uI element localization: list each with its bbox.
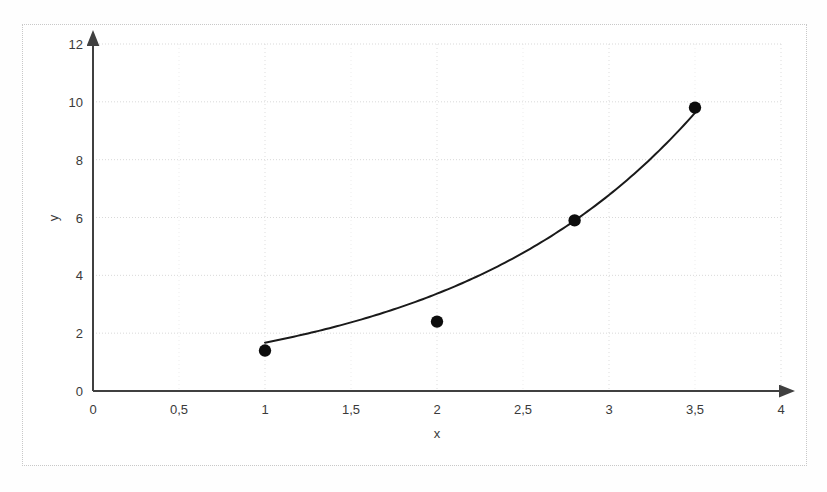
y-tick-label-3: 6 xyxy=(76,211,83,226)
x-tick-label-4: 2 xyxy=(433,402,440,417)
y-tick-label-4: 8 xyxy=(76,153,83,168)
x-axis-title: x xyxy=(434,426,441,441)
chart-area: 00,511,522,533,54 024681012 x y xyxy=(0,0,827,492)
x-tick-label-1: 0,5 xyxy=(170,402,188,417)
y-tick-label-1: 2 xyxy=(76,326,83,341)
data-point-4 xyxy=(689,101,701,113)
data-point-markers xyxy=(259,101,701,356)
x-tick-label-5: 2,5 xyxy=(514,402,532,417)
scanned-page: 00,511,522,533,54 024681012 x y xyxy=(0,0,827,492)
y-axis-tick-labels: 024681012 xyxy=(69,37,83,399)
x-tick-label-6: 3 xyxy=(605,402,612,417)
x-tick-label-2: 1 xyxy=(261,402,268,417)
data-point-2 xyxy=(431,315,443,327)
scatter-plot: 00,511,522,533,54 024681012 x y xyxy=(0,0,827,492)
y-tick-label-5: 10 xyxy=(69,95,83,110)
x-tick-label-8: 4 xyxy=(777,402,784,417)
y-tick-label-6: 12 xyxy=(69,37,83,52)
y-tick-label-0: 0 xyxy=(76,384,83,399)
y-tick-label-2: 4 xyxy=(76,268,83,283)
x-tick-label-0: 0 xyxy=(89,402,96,417)
x-tick-label-3: 1,5 xyxy=(342,402,360,417)
fitted-curve xyxy=(265,113,695,343)
data-point-3 xyxy=(568,214,580,226)
y-axis-title: y xyxy=(46,214,61,221)
data-point-1 xyxy=(259,344,271,356)
x-axis-tick-labels: 00,511,522,533,54 xyxy=(89,402,784,417)
x-tick-label-7: 3,5 xyxy=(686,402,704,417)
